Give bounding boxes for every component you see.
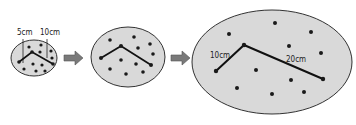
arrow-right-icon <box>64 51 83 65</box>
expansion-diagram: 5cm 10cm <box>0 0 356 125</box>
label-10cm-small: 10cm <box>40 28 60 37</box>
label-10cm-large: 10cm <box>210 51 230 60</box>
label-5cm: 5cm <box>17 28 33 37</box>
arrow-right-icon <box>171 51 190 65</box>
stage-large: 10cm 20cm <box>192 10 352 114</box>
label-20cm: 20cm <box>286 55 306 64</box>
stage-medium <box>91 27 165 87</box>
stage-small: 5cm 10cm <box>11 28 60 76</box>
